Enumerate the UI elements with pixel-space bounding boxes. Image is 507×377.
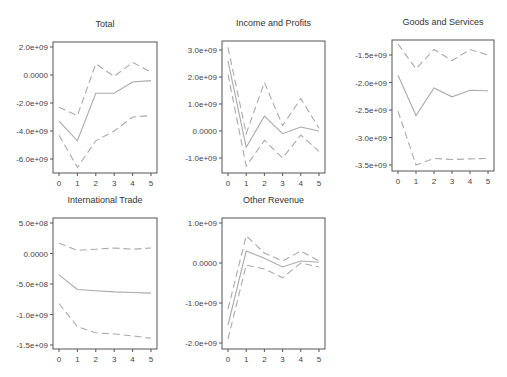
series-line-lower <box>59 304 151 339</box>
x-tick-label: 1 <box>75 179 80 188</box>
x-tick-label: 1 <box>75 355 80 364</box>
x-tick-label: 1 <box>244 355 249 364</box>
y-tick-label: -2.0e+09 <box>355 79 387 88</box>
y-tick-label: -1.0e+09 <box>185 299 217 308</box>
x-tick-label: 5 <box>486 177 491 186</box>
y-tick-label: 0.0000 <box>24 71 49 80</box>
panel-title: International Trade <box>67 195 142 205</box>
panel-title: Other Revenue <box>243 195 304 205</box>
series-line-lower <box>228 263 319 339</box>
x-tick-label: 3 <box>112 355 117 364</box>
plot-frame <box>222 218 325 349</box>
x-tick-label: 4 <box>130 179 135 188</box>
y-tick-label: 5.0e+08 <box>19 219 49 228</box>
y-tick-label: 3.0e+09 <box>188 46 218 55</box>
x-tick-label: 3 <box>112 179 117 188</box>
y-tick-label: -2.5e+09 <box>355 106 387 115</box>
x-tick-label: 4 <box>468 177 473 186</box>
y-tick-label: 0.0000 <box>24 250 49 259</box>
x-tick-label: 1 <box>244 179 249 188</box>
series-line-lower <box>59 116 151 168</box>
x-tick-label: 2 <box>94 355 99 364</box>
x-tick-label: 3 <box>450 177 455 186</box>
panel-total: Total 2.0e+090.0000-2.0e+09-4.0e+09-6.0e… <box>16 19 157 188</box>
series-line-lower <box>398 111 488 165</box>
series-line-upper <box>398 44 488 69</box>
series-line-upper <box>59 62 151 115</box>
series-line-upper <box>59 243 151 250</box>
y-tick-label: -3.5e+09 <box>355 161 387 170</box>
plot-frame <box>392 40 494 171</box>
panel-other-revenue: Other Revenue 1.0e+090.0000-1.0e+09-2.0e… <box>185 195 325 364</box>
y-tick-label: -1.5e+09 <box>16 341 48 350</box>
series-line-estimate <box>59 275 151 293</box>
x-tick-label: 0 <box>57 179 62 188</box>
y-tick-label: -5.0e+08 <box>16 280 48 289</box>
x-tick-label: 0 <box>226 179 231 188</box>
x-tick-label: 0 <box>396 177 401 186</box>
y-tick-label: 0.0000 <box>193 259 218 268</box>
x-tick-label: 2 <box>262 355 267 364</box>
x-tick-label: 5 <box>149 179 154 188</box>
x-tick-label: 0 <box>226 355 231 364</box>
y-tick-label: -1.5e+09 <box>355 51 387 60</box>
y-tick-label: 1.0e+09 <box>188 219 218 228</box>
x-tick-label: 2 <box>262 179 267 188</box>
panel-title: Goods and Services <box>402 17 484 27</box>
x-tick-label: 2 <box>432 177 437 186</box>
series-line-estimate <box>228 251 319 325</box>
series-line-upper <box>228 236 319 309</box>
y-tick-label: 1.0e+09 <box>188 100 218 109</box>
series-line-estimate <box>398 75 488 115</box>
panel-goods-and-services: Goods and Services -1.5e+09-2.0e+09-2.5e… <box>355 17 494 186</box>
plot-frame <box>53 218 157 349</box>
x-tick-label: 4 <box>299 179 304 188</box>
series-line-estimate <box>59 81 151 141</box>
x-tick-label: 4 <box>130 355 135 364</box>
y-tick-label: -2.0e+09 <box>16 99 48 108</box>
y-tick-label: -3.0e+09 <box>355 134 387 143</box>
y-tick-label: 2.0e+09 <box>188 73 218 82</box>
x-tick-label: 3 <box>280 355 285 364</box>
series-line-upper <box>228 47 319 133</box>
y-tick-label: -4.0e+09 <box>16 127 48 136</box>
x-tick-label: 5 <box>149 355 154 364</box>
x-tick-label: 1 <box>414 177 419 186</box>
y-tick-label: 0.0000 <box>193 127 218 136</box>
x-tick-label: 0 <box>57 355 62 364</box>
panel-title: Total <box>95 19 114 29</box>
panel-income-and-profits: Income and Profits 3.0e+092.0e+091.0e+09… <box>185 18 325 188</box>
y-tick-label: -2.0e+09 <box>185 339 217 348</box>
y-tick-label: -6.0e+09 <box>16 155 48 164</box>
x-tick-label: 5 <box>317 355 322 364</box>
x-tick-label: 5 <box>317 179 322 188</box>
panel-title: Income and Profits <box>236 18 312 28</box>
x-tick-label: 3 <box>280 179 285 188</box>
series-line-lower <box>228 74 319 166</box>
plot-frame <box>53 42 157 173</box>
x-tick-label: 4 <box>299 355 304 364</box>
panel-international-trade: International Trade 5.0e+080.0000-5.0e+0… <box>16 195 157 364</box>
x-tick-label: 2 <box>94 179 99 188</box>
y-tick-label: -1.0e+09 <box>16 311 48 320</box>
y-tick-label: -1.0e+09 <box>185 154 217 163</box>
y-tick-label: 2.0e+09 <box>19 43 49 52</box>
impulse-response-figure: Total 2.0e+090.0000-2.0e+09-4.0e+09-6.0e… <box>0 0 507 377</box>
